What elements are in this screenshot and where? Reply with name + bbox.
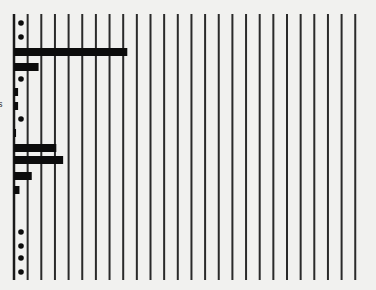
horizontal-bar-chart: s (0, 0, 376, 290)
zero-value-dot (18, 76, 24, 82)
bar (14, 144, 56, 152)
chart-background (0, 0, 376, 290)
zero-value-dot (18, 269, 24, 275)
zero-value-dot (18, 229, 24, 235)
bar (14, 88, 18, 96)
bar (14, 63, 39, 71)
zero-value-dot (18, 255, 24, 261)
bar (14, 48, 127, 56)
bar (14, 172, 32, 180)
zero-value-dot (18, 116, 24, 122)
zero-value-dot (18, 243, 24, 249)
bar (14, 129, 16, 137)
bar (14, 102, 18, 110)
bar (14, 186, 19, 194)
bar (14, 156, 63, 164)
zero-value-dot (18, 20, 24, 26)
zero-value-dot (18, 34, 24, 40)
